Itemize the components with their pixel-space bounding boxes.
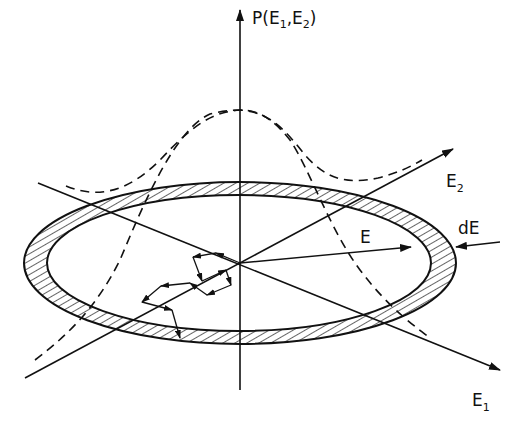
shell-width-arrow (456, 242, 500, 247)
e1-axis-label: E1 (472, 390, 490, 414)
e2-axis-label: E2 (446, 171, 464, 195)
shell-width-label: dE (458, 218, 480, 238)
radius-label: E (360, 227, 371, 247)
energy-shell-diagram: P(E1,E2) E2 E1 E dE (0, 0, 521, 425)
p-axis-label: P(E1,E2) (252, 8, 316, 31)
